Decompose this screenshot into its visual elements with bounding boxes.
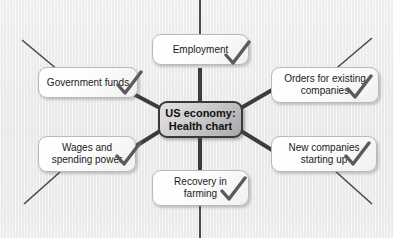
node-recovery-in-farming[interactable]: Recovery in farming xyxy=(152,170,249,206)
node-government-funds[interactable]: Government funds xyxy=(38,67,138,98)
outer-spoke-bottom-right xyxy=(334,170,372,204)
node-wages-label: Wages and spending power xyxy=(52,142,123,166)
node-wages-and-spending-power[interactable]: Wages and spending power xyxy=(38,136,136,172)
node-new-companies-starting-up[interactable]: New companies starting up xyxy=(271,136,377,172)
center-node-label: US economy: Health chart xyxy=(165,107,235,133)
center-node[interactable]: US economy: Health chart xyxy=(158,101,243,138)
node-employment[interactable]: Employment xyxy=(152,34,249,65)
node-orders-for-existing-companies[interactable]: Orders for existing companies xyxy=(271,67,379,103)
node-government-funds-label: Government funds xyxy=(47,77,129,89)
branch-to-orders xyxy=(241,90,272,108)
node-orders-label: Orders for existing companies xyxy=(284,73,366,97)
node-new-companies-label: New companies starting up xyxy=(288,142,359,166)
node-employment-label: Employment xyxy=(173,44,229,56)
diagram-canvas: US economy: Health chart Employment Orde… xyxy=(0,0,393,238)
node-recovery-label: Recovery in farming xyxy=(174,176,227,200)
branch-to-new-companies xyxy=(241,131,272,150)
outer-spoke-top-left xyxy=(22,40,58,70)
outer-spoke-bottom-left xyxy=(24,172,60,204)
